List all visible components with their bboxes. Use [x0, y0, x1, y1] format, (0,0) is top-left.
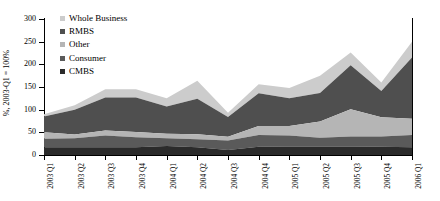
x-tick [289, 155, 290, 160]
x-tick [75, 155, 76, 160]
x-tick-label: 2003 Q3 [108, 163, 116, 189]
x-tick-label: 2004 Q1 [170, 163, 178, 189]
legend-swatch-icon [60, 56, 65, 61]
legend-label: Consumer [69, 53, 106, 64]
legend-swatch-icon [60, 69, 65, 74]
x-tick [105, 155, 106, 160]
y-tick-label: 50 [28, 126, 36, 137]
chart-legend: Whole BusinessRMBSOtherConsumerCMBS [60, 13, 127, 77]
x-tick-label: 2003 Q2 [78, 163, 86, 189]
x-tick [44, 155, 45, 160]
x-tick-label: 2004 Q3 [231, 163, 239, 189]
legend-label: CMBS [69, 66, 94, 77]
legend-label: Whole Business [69, 13, 127, 24]
x-tick-label: 2005 Q3 [354, 163, 362, 189]
x-tick-label: 2006 Q1 [415, 163, 423, 189]
x-tick [136, 155, 137, 160]
x-tick-label: 2005 Q4 [384, 163, 392, 189]
x-tick-label: 2003 Q4 [139, 163, 147, 189]
legend-item-other: Other [60, 39, 127, 50]
x-tick [381, 155, 382, 160]
legend-label: RMBS [69, 26, 94, 37]
x-tick [351, 155, 352, 160]
plot-right-border [412, 18, 413, 156]
y-tick-label: 200 [24, 58, 36, 69]
legend-item-whole-business: Whole Business [60, 13, 127, 24]
x-tick [320, 155, 321, 160]
legend-swatch-icon [60, 29, 65, 34]
y-tick-label: 250 [24, 36, 36, 47]
x-tick [167, 155, 168, 160]
x-tick [412, 155, 413, 160]
x-tick-label: 2004 Q4 [262, 163, 270, 189]
x-tick [259, 155, 260, 160]
legend-label: Other [69, 39, 90, 50]
x-tick [228, 155, 229, 160]
x-tick [197, 155, 198, 160]
legend-swatch-icon [60, 16, 65, 21]
x-tick-label: 2005 Q1 [292, 163, 300, 189]
x-tick-label: 2003 Q1 [47, 163, 55, 189]
y-tick-label: 150 [24, 81, 36, 92]
stacked-area-chart: %, 2003-Q1 = 100% 050100150200250300 200… [0, 0, 440, 201]
x-tick-label: 2004 Q2 [200, 163, 208, 189]
y-tick-label: 0 [32, 149, 36, 160]
y-axis-title: %, 2003-Q1 = 100% [2, 50, 11, 116]
y-tick-label: 300 [24, 13, 36, 24]
x-tick-label: 2005 Q2 [323, 163, 331, 189]
legend-item-cmbs: CMBS [60, 66, 127, 77]
legend-swatch-icon [60, 42, 65, 47]
legend-item-consumer: Consumer [60, 53, 127, 64]
legend-item-rmbs: RMBS [60, 26, 127, 37]
y-tick-label: 100 [24, 104, 36, 115]
